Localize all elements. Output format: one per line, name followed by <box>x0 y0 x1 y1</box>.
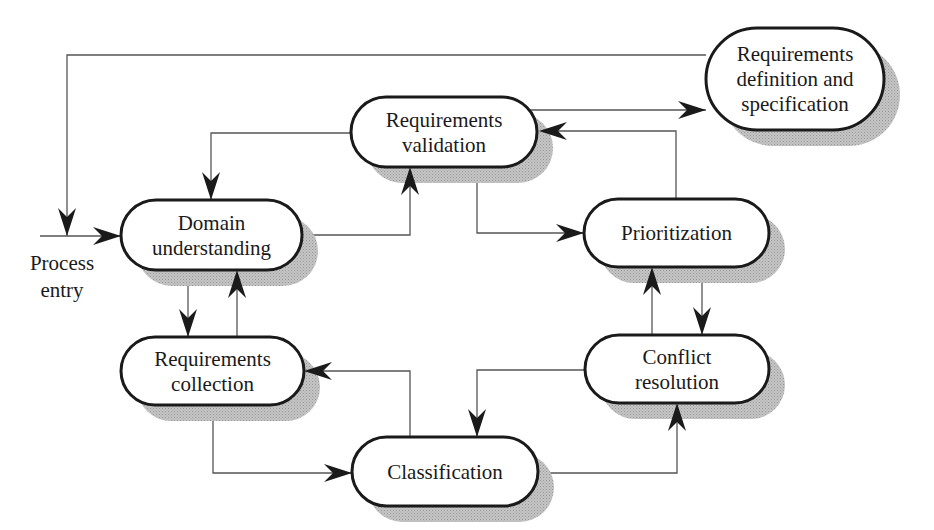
node-label: Domain <box>178 211 246 235</box>
node-label: definition and <box>736 67 854 91</box>
node-prioritization[interactable]: Prioritization <box>584 199 769 267</box>
node-label: Prioritization <box>621 221 732 245</box>
node-label: Conflict <box>643 345 712 369</box>
node-label: Requirements <box>737 42 854 66</box>
node-label: Requirements <box>154 347 271 371</box>
node-label: Requirements <box>386 108 503 132</box>
edge-classification-to-collection <box>304 371 410 437</box>
node-definition[interactable]: Requirementsdefinition andspecification <box>706 28 884 130</box>
node-label: Classification <box>387 460 503 484</box>
node-label: collection <box>171 372 254 396</box>
requirements-process-diagram: RequirementsvalidationRequirementsdefini… <box>0 0 934 530</box>
process-entry-label: Processentry <box>30 251 94 302</box>
entry-label-line: entry <box>40 278 84 302</box>
edge-validation-to-domain <box>211 133 351 200</box>
edge-conflict-to-classification <box>477 370 585 437</box>
node-label: resolution <box>635 370 719 394</box>
node-classification[interactable]: Classification <box>352 437 538 506</box>
node-domain[interactable]: Domainunderstanding <box>121 200 302 270</box>
node-label: understanding <box>152 236 271 260</box>
node-label: validation <box>402 133 486 157</box>
node-label: specification <box>741 92 849 116</box>
entry-label-line: Process <box>30 251 94 275</box>
node-collection[interactable]: Requirementscollection <box>121 337 304 405</box>
node-conflict[interactable]: Conflictresolution <box>585 335 769 403</box>
edge-prioritization-to-validation <box>539 131 676 199</box>
node-validation[interactable]: Requirementsvalidation <box>351 97 537 167</box>
